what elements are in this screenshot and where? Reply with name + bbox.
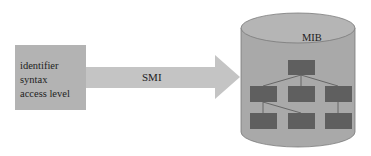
smi-label: SMI — [142, 71, 162, 83]
mib-node — [250, 113, 277, 129]
mib-node — [325, 86, 352, 102]
mib-node — [288, 113, 315, 129]
mib-node — [325, 113, 352, 129]
mib-node — [250, 86, 277, 102]
mib-root-node — [288, 60, 315, 75]
attribute-access-level: access level — [20, 87, 70, 101]
mib-node — [288, 86, 315, 102]
mib-label: MIB — [302, 32, 322, 43]
attribute-syntax: syntax — [20, 73, 70, 87]
smi-arrow — [86, 55, 240, 99]
source-attributes-list: identifier syntax access level — [20, 59, 70, 101]
attribute-identifier: identifier — [20, 59, 70, 73]
